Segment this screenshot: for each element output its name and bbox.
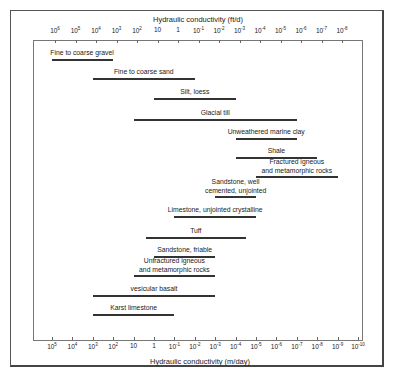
range-bar-label: Fine to coarse gravel <box>50 49 113 58</box>
range-bar <box>256 176 338 178</box>
top-tick-label: 10-4 <box>254 26 265 34</box>
bottom-tick-label: 102 <box>108 342 118 350</box>
bottom-tick-mark <box>297 337 298 340</box>
range-bar <box>146 237 246 239</box>
bottom-tick-label: 1 <box>152 342 156 349</box>
top-tick-mark <box>342 40 343 43</box>
bottom-tick-label: 10-9 <box>332 342 343 350</box>
range-bar <box>174 216 256 218</box>
top-tick-label: 10 <box>154 26 161 33</box>
bottom-axis-title: Hydraulic conductivity (m/day) <box>150 357 250 366</box>
bottom-tick-label: 10-2 <box>189 342 200 350</box>
range-bar <box>154 98 236 100</box>
bottom-tick-mark <box>256 337 257 340</box>
range-bar <box>52 59 113 61</box>
bottom-tick-label: 10-1 <box>169 342 180 350</box>
range-bar <box>93 78 195 80</box>
range-bar-label: Shale <box>268 147 285 156</box>
range-bar-label: Sandstone, wellcemented, unjointed <box>205 178 266 195</box>
top-tick-mark <box>55 40 56 43</box>
top-tick-mark <box>281 40 282 43</box>
bottom-tick-mark <box>134 337 135 340</box>
top-tick-mark <box>178 40 179 43</box>
bottom-tick-mark <box>113 337 114 340</box>
top-tick-label: 106 <box>50 26 60 34</box>
range-bar-label: Tuff <box>190 227 201 236</box>
bottom-tick-mark <box>174 337 175 340</box>
range-bar-label: Limestone, unjointed crystalline <box>168 206 263 215</box>
bottom-tick-mark <box>338 337 339 340</box>
range-bar-label: Karst limestone <box>110 304 157 313</box>
range-bar-label: vesicular basalt <box>131 285 178 294</box>
bottom-tick-label: 10-7 <box>291 342 302 350</box>
top-tick-mark <box>240 40 241 43</box>
top-tick-label: 10-6 <box>295 26 306 34</box>
top-tick-label: 10-2 <box>213 26 224 34</box>
top-tick-label: 1 <box>176 26 180 33</box>
bottom-tick-label: 10-5 <box>250 342 261 350</box>
top-tick-mark <box>322 40 323 43</box>
range-bar <box>236 138 297 140</box>
bottom-tick-label: 103 <box>88 342 98 350</box>
bottom-tick-mark <box>276 337 277 340</box>
top-tick-mark <box>260 40 261 43</box>
bottom-tick-mark <box>317 337 318 340</box>
top-tick-label: 102 <box>132 26 142 34</box>
range-bar-label: Sandstone, friable <box>157 246 212 255</box>
top-tick-mark <box>76 40 77 43</box>
top-tick-label: 10-1 <box>193 26 204 34</box>
range-bar <box>93 295 215 297</box>
top-tick-label: 10-8 <box>336 26 347 34</box>
range-bar <box>93 314 175 316</box>
top-tick-mark <box>158 40 159 43</box>
bottom-tick-mark <box>154 337 155 340</box>
bottom-tick-label: 10-3 <box>210 342 221 350</box>
bottom-tick-label: 104 <box>68 342 78 350</box>
top-tick-mark <box>96 40 97 43</box>
bottom-tick-mark <box>72 337 73 340</box>
bottom-tick-mark <box>215 337 216 340</box>
range-bar-label: Fine to coarse sand <box>114 68 174 77</box>
range-bar-label: Unweathered marine clay <box>228 128 305 137</box>
range-bar <box>215 196 256 198</box>
top-tick-label: 104 <box>91 26 101 34</box>
top-tick-mark <box>137 40 138 43</box>
bottom-tick-mark <box>52 337 53 340</box>
top-tick-label: 105 <box>71 26 81 34</box>
range-bar-label: Silt, loess <box>180 88 209 97</box>
top-tick-mark <box>117 40 118 43</box>
bottom-tick-mark <box>93 337 94 340</box>
top-tick-label: 10-7 <box>316 26 327 34</box>
top-tick-mark <box>219 40 220 43</box>
range-bar <box>134 119 297 121</box>
range-bar <box>134 275 216 277</box>
bottom-tick-mark <box>195 337 196 340</box>
top-tick-label: 10-5 <box>275 26 286 34</box>
range-bar-label: Fractured igneousand metamorphic rocks <box>261 158 332 175</box>
bottom-tick-label: 10-4 <box>230 342 241 350</box>
range-bar-label: Unfractured igneousand metamorphic rocks <box>139 257 210 274</box>
top-tick-mark <box>199 40 200 43</box>
bottom-tick-mark <box>236 337 237 340</box>
bottom-tick-label: 10-8 <box>312 342 323 350</box>
top-tick-mark <box>301 40 302 43</box>
bottom-tick-label: 10-10 <box>351 342 365 350</box>
top-axis-title: Hydraulic conductivity (ft/d) <box>153 15 243 24</box>
bottom-tick-label: 10-6 <box>271 342 282 350</box>
bottom-tick-label: 105 <box>47 342 57 350</box>
top-tick-label: 10-3 <box>234 26 245 34</box>
bottom-tick-label: 10 <box>130 342 137 349</box>
bottom-tick-mark <box>358 337 359 340</box>
top-tick-label: 103 <box>112 26 122 34</box>
range-bar-label: Glacial till <box>201 109 230 118</box>
